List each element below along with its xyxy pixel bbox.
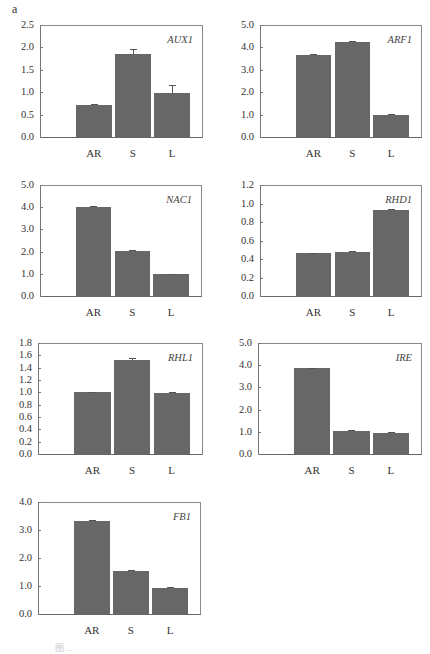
y-tick-label: 5.0 xyxy=(224,20,254,30)
gene-label: IRE xyxy=(396,352,412,363)
y-tick xyxy=(258,410,261,411)
bar-l xyxy=(154,393,190,454)
bar-ar xyxy=(74,392,110,454)
y-tick-label: 0.0 xyxy=(4,291,34,301)
y-tick xyxy=(260,92,263,93)
bar-s xyxy=(115,54,151,137)
bar-chart-arf1: 0.01.02.03.04.05.0ARSLARF1 xyxy=(260,25,422,138)
y-tick xyxy=(258,387,261,388)
y-tick xyxy=(38,429,41,430)
panel-letter: a xyxy=(12,2,17,17)
error-bar-cap xyxy=(90,206,97,207)
x-tick-label: L xyxy=(376,464,406,476)
y-tick xyxy=(258,432,261,433)
y-tick-label: 5.0 xyxy=(4,180,34,190)
y-tick xyxy=(38,368,41,369)
bar-ar xyxy=(74,521,110,614)
x-tick-label: AR xyxy=(298,306,328,318)
gene-label: ARF1 xyxy=(388,34,413,45)
y-tick-label: 3.0 xyxy=(2,525,32,535)
y-tick xyxy=(260,222,263,223)
y-tick xyxy=(260,70,263,71)
error-bar-cap xyxy=(388,209,395,210)
x-tick-label: AR xyxy=(77,624,107,636)
bar-ar xyxy=(296,55,332,137)
y-tick xyxy=(40,296,43,297)
bar-chart-aux1: 0.00.51.01.52.02.5ARSLAUX1 xyxy=(40,25,203,138)
y-tick-label: 0.2 xyxy=(2,437,32,447)
y-tick-label: 5.0 xyxy=(222,338,252,348)
y-tick xyxy=(260,296,263,297)
gene-label: RHD1 xyxy=(385,194,412,205)
y-tick xyxy=(40,274,43,275)
y-tick xyxy=(38,530,41,531)
y-tick xyxy=(260,137,263,138)
error-bar xyxy=(172,85,173,93)
x-tick-label: L xyxy=(155,624,185,636)
y-tick-label: 2.5 xyxy=(4,20,34,30)
y-tick-label: 4.0 xyxy=(222,360,252,370)
bar-chart-rhl1: 0.00.20.40.60.81.01.21.41.61.8ARSLRHL1 xyxy=(38,343,203,455)
y-tick-label: 2.0 xyxy=(222,405,252,415)
y-tick xyxy=(38,405,41,406)
bar-s xyxy=(335,252,371,296)
y-tick-label: 0.0 xyxy=(224,132,254,142)
y-tick-label: 0.0 xyxy=(2,449,32,459)
y-tick xyxy=(38,502,41,503)
bar-ar xyxy=(76,105,112,137)
error-bar-cap xyxy=(349,251,356,252)
error-bar-cap xyxy=(130,49,137,50)
error-bar-cap xyxy=(129,358,136,359)
bar-l xyxy=(373,115,409,137)
error-bar-cap xyxy=(348,430,355,431)
y-tick xyxy=(38,558,41,559)
bar-chart-nac1: 0.01.02.03.04.05.0ARSLNAC1 xyxy=(40,185,202,297)
y-tick-label: 1.0 xyxy=(2,387,32,397)
x-tick-label: S xyxy=(117,464,147,476)
y-tick-label: 1.2 xyxy=(2,375,32,385)
bar-s xyxy=(114,360,150,454)
x-tick-label: L xyxy=(156,306,186,318)
y-tick xyxy=(40,47,43,48)
bar-chart-rhd1: 0.00.20.40.60.81.01.2ARSLRHD1 xyxy=(260,185,422,297)
y-tick xyxy=(260,47,263,48)
error-bar-cap xyxy=(310,253,317,254)
bar-l xyxy=(373,433,409,454)
y-tick xyxy=(38,417,41,418)
y-tick xyxy=(258,454,261,455)
y-tick xyxy=(38,454,41,455)
x-tick-label: S xyxy=(337,147,367,159)
bar-s xyxy=(335,42,371,137)
y-tick-label: 0.4 xyxy=(2,424,32,434)
bar-chart-ire: 0.01.02.03.04.05.0ARSLIRE xyxy=(258,343,422,455)
y-tick xyxy=(38,392,41,393)
y-tick xyxy=(260,115,263,116)
y-tick-label: 2.0 xyxy=(2,553,32,563)
x-tick-label: AR xyxy=(298,147,328,159)
gene-label: AUX1 xyxy=(167,34,193,45)
y-tick-label: 0.0 xyxy=(222,449,252,459)
y-tick-label: 4.0 xyxy=(224,42,254,52)
y-tick xyxy=(38,442,41,443)
bar-l xyxy=(152,588,188,614)
error-bar-cap xyxy=(89,520,96,521)
y-tick-label: 0.0 xyxy=(4,132,34,142)
y-tick xyxy=(38,355,41,356)
y-tick-label: 1.0 xyxy=(4,269,34,279)
bar-l xyxy=(154,93,190,137)
x-tick-label: L xyxy=(376,147,406,159)
y-tick-label: 0.2 xyxy=(224,273,254,283)
y-tick-label: 1.6 xyxy=(2,350,32,360)
y-tick xyxy=(40,92,43,93)
x-tick-label: S xyxy=(116,624,146,636)
y-tick-label: 2.0 xyxy=(4,247,34,257)
gene-label: FB1 xyxy=(173,511,191,522)
y-tick-label: 1.0 xyxy=(224,110,254,120)
y-tick-label: 1.0 xyxy=(4,87,34,97)
y-tick-label: 2.0 xyxy=(224,87,254,97)
y-tick-label: 1.5 xyxy=(4,65,34,75)
x-tick-label: S xyxy=(337,306,367,318)
error-bar-cap xyxy=(128,570,135,571)
y-tick xyxy=(260,241,263,242)
bar-l xyxy=(153,274,189,296)
